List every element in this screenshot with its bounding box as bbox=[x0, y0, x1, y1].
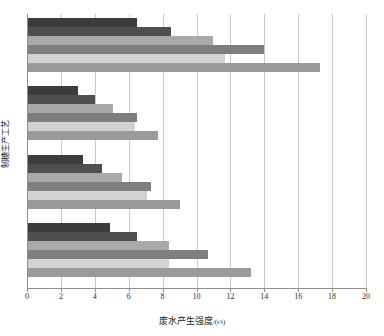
plot-area bbox=[27, 14, 366, 288]
bar bbox=[27, 164, 102, 173]
bar bbox=[27, 182, 151, 191]
x-axis-tick-label: 4 bbox=[93, 292, 97, 302]
bar bbox=[27, 223, 110, 232]
bar bbox=[27, 86, 78, 95]
x-axis-tick-label: 6 bbox=[127, 292, 131, 302]
x-axis-tick-label: 16 bbox=[294, 292, 302, 302]
bar bbox=[27, 36, 213, 45]
bar bbox=[27, 27, 171, 36]
x-axis-tick-label: 8 bbox=[161, 292, 165, 302]
bar bbox=[27, 259, 169, 268]
bar bbox=[27, 200, 180, 209]
wastewater-intensity-bar-chart: 02468101214161820 废水产生强度/(t/t) 制糖生产工艺 bbox=[0, 0, 384, 336]
bar bbox=[27, 45, 264, 54]
bar-group bbox=[27, 18, 366, 72]
bar-group bbox=[27, 155, 366, 209]
bar bbox=[27, 54, 225, 63]
bar bbox=[27, 63, 320, 72]
bar-group bbox=[27, 223, 366, 277]
bar bbox=[27, 113, 137, 122]
bar bbox=[27, 250, 208, 259]
y-axis-line bbox=[27, 14, 28, 289]
x-axis-tick-label: 14 bbox=[260, 292, 268, 302]
bar bbox=[27, 18, 137, 27]
x-axis-title: 废水产生强度/(t/t) bbox=[0, 314, 384, 327]
bar-group bbox=[27, 86, 366, 140]
x-axis-tick-label: 2 bbox=[59, 292, 63, 302]
x-axis-title-main: 废水产生强度 bbox=[159, 316, 213, 326]
y-axis-title: 制糖生产工艺 bbox=[1, 120, 10, 168]
bar bbox=[27, 191, 147, 200]
x-axis-tick-label: 10 bbox=[193, 292, 201, 302]
x-axis-tick-label: 18 bbox=[328, 292, 336, 302]
bar bbox=[27, 268, 251, 277]
bar bbox=[27, 173, 122, 182]
x-axis-tick-label: 12 bbox=[226, 292, 234, 302]
bar bbox=[27, 232, 137, 241]
bar bbox=[27, 104, 113, 113]
bar bbox=[27, 241, 169, 250]
bar bbox=[27, 131, 158, 140]
bar bbox=[27, 122, 135, 131]
bar bbox=[27, 95, 95, 104]
x-axis-tick-label: 0 bbox=[25, 292, 29, 302]
x-axis-tick-label: 20 bbox=[362, 292, 370, 302]
x-axis-title-unit: /(t/t) bbox=[213, 318, 225, 326]
bar bbox=[27, 155, 83, 164]
gridline bbox=[366, 14, 367, 288]
